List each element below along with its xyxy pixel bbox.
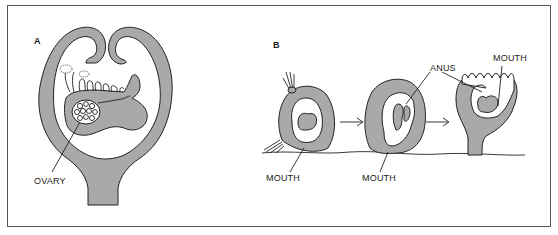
arrow-1: [340, 118, 363, 126]
stage-3-polyp: ANUS MOUTH: [430, 53, 527, 155]
panel-b: B MOUTH MOUTH: [262, 40, 527, 183]
stage-3-anus-label: ANUS: [430, 63, 456, 73]
panel-a: A OVARY: [34, 27, 172, 205]
ciliated-funnel: [60, 65, 72, 73]
stage-1-larva: MOUTH: [264, 72, 335, 183]
arrow-2: [426, 118, 449, 126]
tentacle-loops: [65, 70, 124, 92]
ciliated-funnel: [79, 71, 89, 77]
panel-a-label: A: [34, 36, 41, 46]
diagram: A OVARY B: [0, 0, 558, 235]
stage-2-mouth-label: MOUTH: [362, 173, 396, 183]
stage-2-larva: MOUTH: [362, 72, 430, 183]
panel-b-label: B: [273, 40, 280, 50]
ovary-label: OVARY: [34, 176, 66, 186]
stage-3-mouth-label: MOUTH: [493, 53, 527, 63]
ovary: [72, 100, 100, 124]
stage-1-mouth-label: MOUTH: [266, 173, 300, 183]
